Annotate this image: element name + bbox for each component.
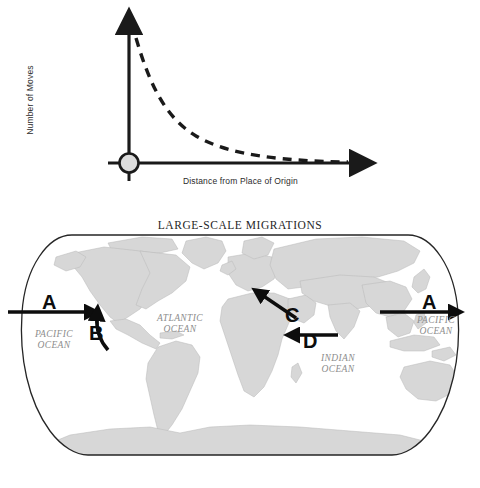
arrow-label-a-east: A	[422, 292, 436, 312]
arrow-label-a-west: A	[42, 292, 56, 312]
figure-page: Number of Moves Distance from Place of O…	[0, 0, 480, 488]
arrow-label-d: D	[303, 331, 317, 351]
origin-circle	[120, 154, 139, 173]
world-migration-map: LARGE-SCALE MIGRATIONS	[0, 205, 480, 488]
distance-decay-graph: Number of Moves Distance from Place of O…	[0, 0, 480, 205]
arrow-label-b: B	[89, 323, 103, 343]
x-axis-label: Distance from Place of Origin	[183, 176, 298, 186]
y-axis-label: Number of Moves	[25, 45, 35, 155]
map-canvas	[0, 205, 480, 488]
arrow-label-c: C	[285, 305, 299, 325]
decay-curve	[136, 38, 348, 162]
land-new-zealand	[460, 395, 472, 411]
graph-canvas	[0, 0, 480, 205]
